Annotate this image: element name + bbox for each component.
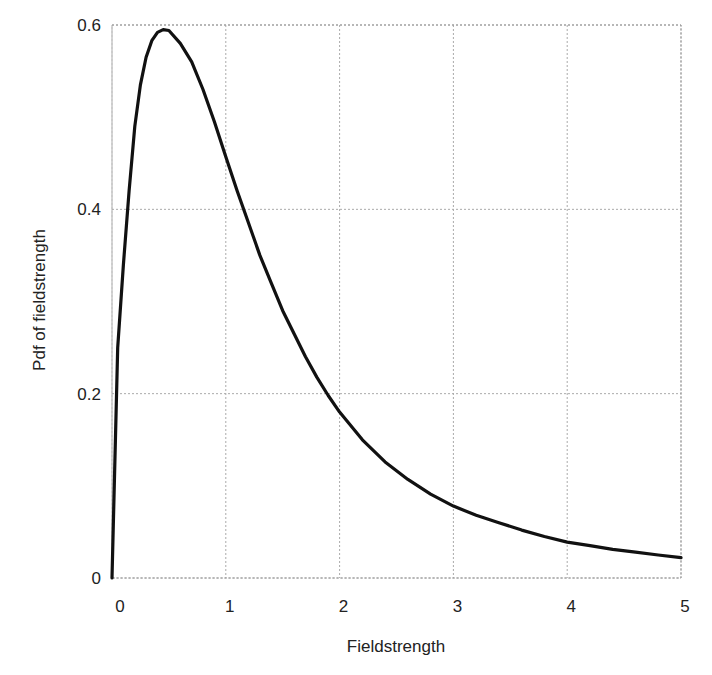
y-tick-label: 0.6 — [77, 16, 101, 35]
x-tick-label: 5 — [680, 597, 689, 616]
y-axis-label: Pdf of fieldstrength — [30, 229, 49, 371]
y-axis-ticks: 00.20.40.6 — [77, 16, 101, 588]
grid-lines — [112, 25, 681, 578]
plot-frame — [112, 25, 681, 578]
x-tick-label: 1 — [225, 597, 234, 616]
x-tick-label: 2 — [339, 597, 348, 616]
x-axis-ticks: 012345 — [115, 597, 689, 616]
x-tick-label: 3 — [453, 597, 462, 616]
x-tick-label: 0 — [115, 597, 124, 616]
pdf-curve — [112, 30, 681, 578]
y-tick-label: 0.4 — [77, 200, 101, 219]
chart: 012345 00.20.40.6 Fieldstrength Pdf of f… — [0, 0, 712, 675]
x-tick-label: 4 — [566, 597, 575, 616]
y-tick-label: 0 — [92, 569, 101, 588]
x-axis-label: Fieldstrength — [347, 637, 445, 656]
y-tick-label: 0.2 — [77, 385, 101, 404]
